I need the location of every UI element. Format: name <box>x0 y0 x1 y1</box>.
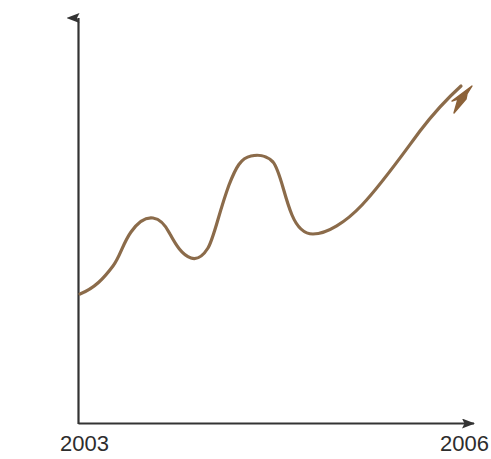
x-axis-tick-label-end: 2006 <box>440 431 489 457</box>
price-trend-curve <box>80 86 461 294</box>
y-axis-label-line-2: (international) <box>0 211 62 330</box>
chart-container: Global poultry price (international) 200… <box>0 0 491 459</box>
y-axis-label: Global poultry price (international) <box>0 0 78 459</box>
x-axis-tick-label-start: 2003 <box>60 431 109 457</box>
